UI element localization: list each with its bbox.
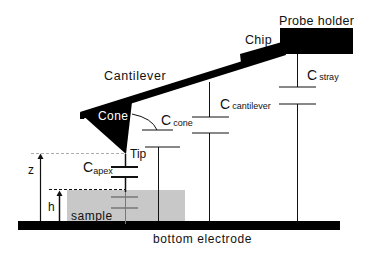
bottom-electrode-label: bottom electrode: [153, 232, 252, 246]
h-label: h: [48, 200, 55, 214]
sample-label: sample: [71, 209, 113, 223]
c-stray-label: Cstray: [307, 67, 339, 83]
z-label: z: [28, 163, 34, 177]
h-arrow: [57, 191, 63, 222]
cantilever-end: [80, 113, 84, 119]
probe-holder-label: Probe holder: [279, 14, 354, 28]
chip-label: Chip: [245, 33, 272, 47]
cone-label: Cone: [98, 109, 128, 123]
z-arrow: [38, 154, 44, 222]
c-apex-label: Capex: [83, 159, 113, 176]
probe-holder: [280, 28, 353, 54]
c-cone-label: Ccone: [161, 112, 193, 128]
cantilever-label: Cantilever: [104, 69, 166, 83]
c-cantilever-label: Ccantilever: [220, 96, 271, 112]
tip-label: Tip: [130, 147, 147, 161]
bottom-electrode: [18, 221, 340, 230]
afm-capacitance-diagram: Probe holder Chip Cantilever Cone Tip z …: [0, 0, 373, 255]
